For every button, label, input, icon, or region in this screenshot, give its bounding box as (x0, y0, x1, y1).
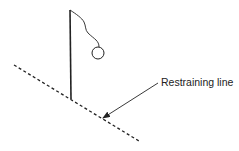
pole (70, 10, 71, 99)
restraining-line (14, 65, 139, 141)
string (70, 10, 99, 47)
restraining-line-label: Restraining line (161, 77, 233, 88)
label-arrow (103, 83, 158, 118)
ball (92, 47, 104, 59)
